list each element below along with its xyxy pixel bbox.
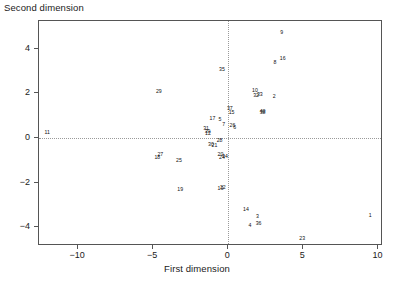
plot-frame: 1234567891011121314151617181920212223242… — [38, 20, 382, 245]
x-axis-tick — [77, 245, 78, 249]
data-point-label: 3 — [256, 214, 259, 219]
data-point-label: 30 — [208, 142, 214, 147]
data-point-label: 26 — [230, 124, 236, 129]
x-axis-tick — [227, 245, 228, 249]
data-point-label: 25 — [176, 158, 182, 163]
data-point-label: 29 — [156, 89, 162, 94]
y-axis-tick — [34, 92, 38, 93]
x-axis-tick-label: 10 — [372, 250, 382, 260]
data-point-label: 1 — [369, 214, 372, 219]
data-point-label: 40 — [260, 109, 266, 114]
x-axis-tick-label: 0 — [225, 250, 230, 260]
y-axis-tick — [34, 226, 38, 227]
data-point-label: 22 — [220, 186, 226, 191]
data-point-label: 19 — [177, 188, 183, 193]
data-point-label: 23 — [299, 236, 305, 241]
data-point-label: 9 — [280, 30, 283, 35]
scatter-plot-figure: Second dimension 12345678910111213141516… — [0, 0, 394, 286]
y-axis-tick-label: 2 — [25, 87, 30, 97]
data-point-label: 14 — [243, 208, 249, 213]
y-axis-tick-label: −2 — [20, 177, 30, 187]
plot-area: 1234567891011121314151617181920212223242… — [39, 21, 381, 244]
y-axis-tick-label: 4 — [25, 43, 30, 53]
data-point-label: 2 — [273, 95, 276, 100]
y-axis-tick — [34, 137, 38, 138]
x-axis-tick — [152, 245, 153, 249]
x-axis-tick-label: −10 — [69, 250, 84, 260]
reference-line-horizontal — [39, 138, 381, 139]
x-axis-tick — [302, 245, 303, 249]
y-axis-tick — [34, 182, 38, 183]
y-axis-tick — [34, 48, 38, 49]
data-point-label: 7 — [222, 122, 225, 127]
data-point-label: 33 — [257, 92, 263, 97]
x-axis-tick — [377, 245, 378, 249]
data-point-label: 27 — [157, 153, 163, 158]
data-point-label: 5 — [219, 118, 222, 123]
x-axis-tick-label: 5 — [300, 250, 305, 260]
y-axis-tick-label: −4 — [20, 221, 30, 231]
x-axis-tick-label: −5 — [147, 250, 157, 260]
y-axis-tick-label: 0 — [25, 132, 30, 142]
data-point-label: 39 — [205, 130, 211, 135]
x-axis-title: First dimension — [0, 263, 394, 274]
data-point-label: 37 — [227, 107, 233, 112]
data-point-label: 34 — [222, 155, 228, 160]
data-point-label: 36 — [256, 222, 262, 227]
data-point-label: 35 — [219, 67, 225, 72]
data-point-label: 11 — [45, 130, 50, 135]
data-point-label: 28 — [217, 138, 223, 143]
data-point-label: 8 — [273, 60, 276, 65]
y-axis-title: Second dimension — [4, 2, 84, 13]
data-point-label: 16 — [280, 56, 286, 61]
data-point-label: 4 — [249, 223, 252, 228]
data-point-label: 17 — [210, 116, 216, 121]
reference-line-vertical — [228, 21, 229, 244]
